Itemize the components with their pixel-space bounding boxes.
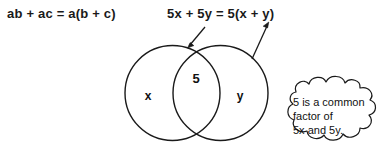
venn-label-intersection: 5 [185, 71, 207, 86]
arrow-to-right-circle [252, 22, 269, 59]
callout-line-1: 5 is a common [293, 95, 379, 109]
equation-left: ab + ac = a(b + c) [7, 6, 116, 21]
arrow-to-left-circle [188, 27, 206, 48]
venn-label-y: y [228, 89, 252, 103]
callout-line-2: factor of [293, 109, 379, 123]
callout-line-3: 5x and 5y. [293, 123, 379, 137]
venn-label-x: x [136, 89, 160, 103]
callout-text: 5 is a common factor of 5x and 5y. [293, 95, 379, 137]
equation-right: 5x + 5y = 5(x + y) [167, 6, 274, 21]
